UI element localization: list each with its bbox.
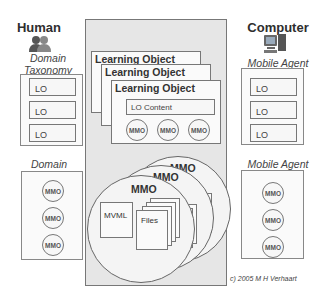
taxonomy-lo-2: LO [29,101,76,119]
domain-taxonomy-panel: LO LO LO [20,74,83,146]
mvml-document: MVML [100,202,133,238]
domain-mmo-1: MMO [42,180,64,202]
domain-mmo-3: MMO [42,234,64,256]
domain-taxonomy-line1: Domain [30,52,66,64]
lo-content-box: LO Content [126,99,215,115]
agent-lo-2: LO [250,101,297,119]
computer-icon [264,34,286,53]
agent-mmo-1: MMO [262,182,284,204]
copyright: c) 2005 M H Verhaart [230,275,297,282]
learning-object-title-2: Learning Object [102,65,210,79]
files-document: Files [136,210,168,250]
files-label: Files [137,211,167,225]
mvml-label: MVML [101,203,132,220]
lo-mmo-3: MMO [188,119,210,141]
agent-lo-3: LO [250,124,297,142]
mmo-circle-1: MMO MVML Files [87,175,195,283]
agent-mmo-2: MMO [262,209,284,231]
lo-mmo-1: MMO [126,119,148,141]
agent-lo-1: LO [250,78,297,96]
people-icon [29,35,51,52]
lo-mmo-2: MMO [157,119,179,141]
domain-label: Domain [18,158,80,170]
computer-title: Computer [238,20,318,35]
domain-mmo-2: MMO [42,207,64,229]
mobile-agent-label-bottom: Mobile Agent [238,158,318,170]
taxonomy-lo-3: LO [29,124,76,142]
agent-mmo-3: MMO [262,236,284,258]
learning-object-card-3: Learning Object LO Content MMO MMO MMO [111,80,221,144]
domain-panel: MMO MMO MMO [21,171,83,260]
learning-object-title-3: Learning Object [112,81,220,95]
domain-taxonomy-label: Domain Taxonomy [18,52,78,76]
taxonomy-lo-1: LO [29,78,76,96]
human-title: Human [14,20,64,35]
mobile-agent-panel-bottom: MMO MMO MMO [241,170,304,259]
mmo-circle-1-label: MMO [131,183,157,195]
mobile-agent-panel-top: LO LO LO [241,68,304,145]
